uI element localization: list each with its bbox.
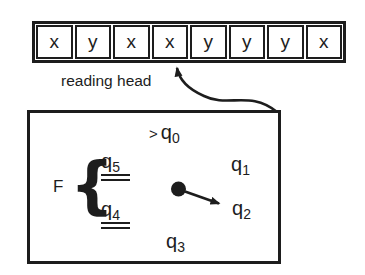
underline <box>101 227 130 229</box>
final-set-label: F <box>53 177 63 197</box>
state-q0-start: >q0 <box>149 120 180 146</box>
tape-cell: x <box>113 25 150 59</box>
tape-cell: y <box>75 25 112 59</box>
tape-cell: y <box>229 25 266 59</box>
state-q5-final: q5 <box>101 148 130 181</box>
state-q2: q2 <box>232 196 251 220</box>
state-q5: q5 <box>101 150 120 172</box>
tape-cell: x <box>36 25 73 59</box>
state-q1: q1 <box>231 152 250 176</box>
tape-cell: x <box>306 25 343 59</box>
state-q0: q0 <box>161 121 180 143</box>
automaton-diagram: x y x x y y y x reading head >q0 q1 q2 q… <box>0 0 365 275</box>
reading-head-arrow <box>177 68 277 112</box>
tape-cell: y <box>267 25 304 59</box>
tape-cell: x <box>152 25 189 59</box>
state-q4-final: q4 <box>101 196 130 229</box>
tape: x y x x y y y x <box>32 21 346 63</box>
tape-cell: y <box>190 25 227 59</box>
state-q3: q3 <box>166 229 185 253</box>
reading-head-label: reading head <box>61 72 152 90</box>
state-q4: q4 <box>101 198 120 220</box>
start-marker: > <box>149 125 158 142</box>
underline <box>101 179 130 181</box>
